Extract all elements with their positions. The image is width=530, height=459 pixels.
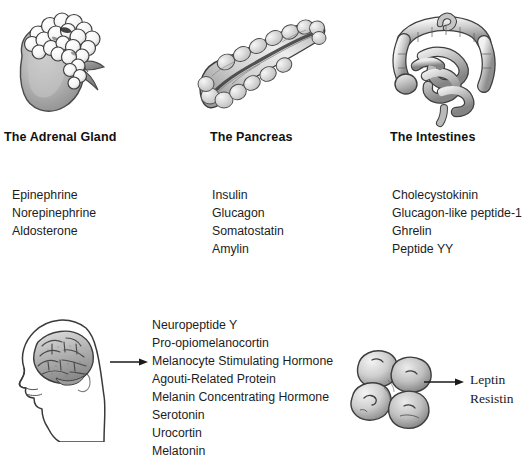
list-item: Serotonin	[152, 406, 333, 424]
list-item: Resistin	[470, 389, 514, 408]
intestines-hormone-list: Cholecystokinin Glucagon-like peptide-1 …	[392, 186, 522, 258]
adrenal-gland-heading: The Adrenal Gland	[4, 130, 116, 144]
adipocyte-cluster-illustration	[348, 344, 444, 440]
list-item: Ghrelin	[392, 222, 522, 240]
adipose-hormone-list: Leptin Resistin	[470, 370, 514, 408]
list-item: Neuropeptide Y	[152, 316, 333, 334]
adrenal-hormone-list: Epinephrine Norepinephrine Aldosterone	[12, 186, 96, 240]
list-item: Insulin	[212, 186, 284, 204]
list-item: Epinephrine	[12, 186, 96, 204]
list-item: Amylin	[212, 240, 284, 258]
pancreas-hormone-list: Insulin Glucagon Somatostatin Amylin	[212, 186, 284, 258]
list-item: Melanin Concentrating Hormone	[152, 388, 333, 406]
list-item: Peptide YY	[392, 240, 522, 258]
pancreas-illustration	[186, 4, 336, 128]
list-item: Aldosterone	[12, 222, 96, 240]
list-item: Pro-opiomelanocortin	[152, 334, 333, 352]
brain-hormone-list: Neuropeptide Y Pro-opiomelanocortin Mela…	[152, 316, 333, 459]
list-item: Somatostatin	[212, 222, 284, 240]
intestines-heading: The Intestines	[390, 130, 475, 144]
list-item: Glucagon	[212, 204, 284, 222]
list-item: Leptin	[470, 370, 514, 389]
adipose-to-hormones-arrow	[424, 374, 466, 390]
brain-head-profile-illustration	[8, 312, 118, 442]
list-item: Agouti-Related Protein	[152, 370, 333, 388]
list-item: Glucagon-like peptide-1	[392, 204, 522, 222]
list-item: Melanocyte Stimulating Hormone	[152, 352, 333, 370]
adrenal-gland-illustration	[8, 4, 168, 128]
list-item: Urocortin	[152, 424, 333, 442]
intestines-illustration	[382, 4, 510, 128]
brain-to-hormones-arrow	[110, 354, 150, 370]
pancreas-heading: The Pancreas	[210, 130, 293, 144]
list-item: Cholecystokinin	[392, 186, 522, 204]
list-item: Melatonin	[152, 442, 333, 459]
list-item: Norepinephrine	[12, 204, 96, 222]
